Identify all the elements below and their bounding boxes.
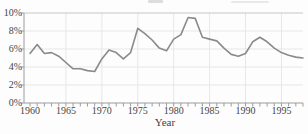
- x-axis-title: Year: [145, 117, 185, 128]
- x-tick-label: 1995: [267, 106, 295, 116]
- x-tick-label: 1975: [124, 106, 152, 116]
- y-tick-label: 10%: [0, 8, 22, 18]
- y-tick-label: 2%: [0, 80, 22, 90]
- y-tick-label: 6%: [0, 44, 22, 54]
- x-tick-label: 1990: [232, 106, 260, 116]
- x-tick-label: 1985: [196, 106, 224, 116]
- x-tick-label: 1970: [88, 106, 116, 116]
- unemployment-series-line: [30, 18, 303, 72]
- x-tick-label: 1960: [16, 106, 44, 116]
- y-tick-label: 8%: [0, 26, 22, 36]
- x-tick-label: 1980: [160, 106, 188, 116]
- x-tick-label: 1965: [52, 106, 80, 116]
- plot-area: [0, 0, 308, 134]
- unemployment-rate-chart: 10%8%6%4%2%0% 19601965197019751980198519…: [0, 0, 308, 134]
- y-tick-label: 4%: [0, 62, 22, 72]
